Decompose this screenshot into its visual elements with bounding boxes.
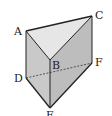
vertex-label-f: F — [95, 56, 103, 69]
vertex-label-e: E — [46, 109, 54, 116]
vertex-label-b: B — [52, 59, 60, 72]
triangular-prism-diagram: A B C D E F — [0, 0, 112, 116]
vertex-label-c: C — [95, 9, 103, 22]
vertex-label-a: A — [13, 25, 23, 38]
vertex-label-d: D — [14, 72, 23, 85]
